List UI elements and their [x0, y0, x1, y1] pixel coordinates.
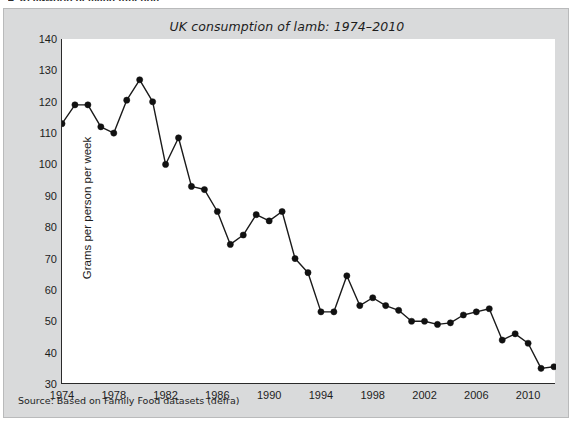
- chart-title: UK consumption of lamb: 1974–2010: [4, 19, 570, 34]
- x-axis-tick-label: 1994: [309, 389, 333, 401]
- plot-area: Grams per person per week 30405060708090…: [61, 39, 555, 384]
- y-axis-tick-label: 130: [39, 64, 57, 76]
- figure-panel: UK consumption of lamb: 1974–2010 Grams …: [3, 8, 569, 418]
- y-axis-tick-label: 120: [39, 96, 57, 108]
- y-axis-tick-label: 90: [45, 190, 57, 202]
- x-axis-tick-label: 1990: [257, 389, 281, 401]
- x-axis-tick-label: 1998: [360, 389, 384, 401]
- y-axis-tick-label: 80: [45, 221, 57, 233]
- y-axis-tick-label: 60: [45, 284, 57, 296]
- y-axis-tick-label: 110: [39, 127, 57, 139]
- source-note: Source: Based on Family Food datasets (d…: [18, 395, 240, 406]
- y-axis-tick-label: 140: [39, 33, 57, 45]
- x-axis-tick-label: 2010: [516, 389, 540, 401]
- x-axis-tick-label: 2006: [464, 389, 488, 401]
- page-heading-cutoff: 4. Real-world demand function: [8, 0, 159, 1]
- line-chart-svg: [62, 39, 556, 384]
- y-axis-tick-label: 100: [39, 158, 57, 170]
- y-axis-tick-label: 40: [45, 347, 57, 359]
- x-axis-tick-label: 2002: [412, 389, 436, 401]
- y-axis-tick-label: 50: [45, 315, 57, 327]
- y-axis-tick-label: 70: [45, 253, 57, 265]
